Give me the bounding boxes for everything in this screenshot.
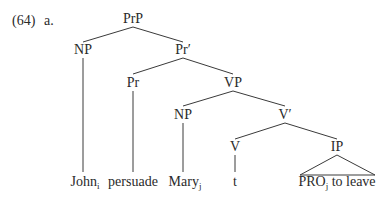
leaf-persuade: persuade: [108, 174, 158, 190]
example-number: (64): [12, 13, 35, 29]
leaf-word: PRO: [298, 174, 325, 189]
node-v-bar: V′: [278, 107, 291, 123]
leaf-word: Mary: [169, 174, 199, 189]
node-np-subject: NP: [74, 42, 92, 58]
leaf-john: Johni: [71, 174, 100, 190]
node-ip: IP: [331, 139, 343, 155]
leaf-rest: to leave: [328, 174, 375, 189]
node-np-object: NP: [174, 107, 192, 123]
leaf-pro-to-leave: PROj to leave: [298, 174, 375, 190]
tree-branches: [0, 0, 384, 202]
node-pr: Pr: [127, 75, 139, 91]
leaf-word: John: [71, 174, 97, 189]
node-vp: VP: [224, 75, 242, 91]
index-subscript: i: [97, 181, 100, 191]
example-letter: a.: [44, 13, 54, 29]
node-v: V: [230, 139, 240, 155]
node-prp: PrP: [123, 11, 143, 27]
node-pr-bar: Pr′: [175, 42, 191, 58]
leaf-mary: Maryj: [169, 174, 202, 190]
index-subscript: j: [199, 181, 202, 191]
leaf-trace: t: [233, 174, 237, 190]
